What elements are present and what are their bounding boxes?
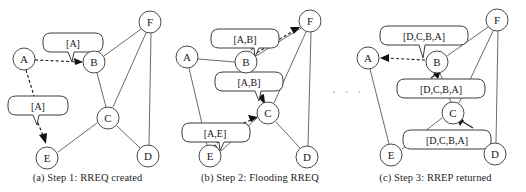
- node-d[interactable]: D: [296, 146, 318, 168]
- node-b-label: B: [433, 56, 440, 68]
- message-label-7: [D,C,B,A]: [420, 84, 462, 95]
- edge-d-f: [149, 33, 151, 145]
- node-a-label: A: [20, 53, 28, 65]
- node-d[interactable]: D: [484, 143, 506, 165]
- node-a[interactable]: A: [357, 47, 379, 69]
- message-label-1: [A]: [66, 38, 80, 49]
- edge-d-f: [308, 32, 311, 146]
- node-b-label: B: [242, 56, 249, 68]
- node-a-label: A: [183, 51, 191, 63]
- edge-b-c: [97, 73, 106, 107]
- node-f[interactable]: F: [486, 9, 508, 31]
- figure-aodv-route-discovery: [A] [A] A B: [0, 0, 526, 192]
- node-b[interactable]: B: [83, 51, 105, 73]
- message-b-to-a: [D,C,B,A]: [380, 26, 468, 62]
- node-b-label: B: [90, 56, 97, 68]
- message-arrow-b-a: [385, 58, 425, 60]
- node-e-label: E: [207, 150, 214, 162]
- edge-c-f: [113, 33, 146, 107]
- node-e[interactable]: E: [36, 147, 58, 169]
- node-a-label: A: [364, 52, 372, 64]
- node-e[interactable]: E: [380, 144, 402, 166]
- node-d-label: D: [491, 148, 499, 160]
- edge-c-d: [276, 122, 300, 148]
- node-e[interactable]: E: [199, 145, 221, 167]
- edge-d-f: [496, 31, 498, 143]
- message-arrow-a-e: [26, 70, 34, 96]
- panel-a-caption: (a) Step 1: RREQ created: [0, 172, 175, 183]
- panel-step-1: [A] [A] A B: [0, 0, 175, 192]
- node-c-label: C: [449, 107, 456, 119]
- panel-separator-ellipsis: · · ·: [332, 84, 364, 100]
- message-arrowhead-a-b: [74, 58, 83, 65]
- node-a[interactable]: A: [176, 46, 198, 68]
- edge-b-f: [104, 29, 141, 56]
- node-c[interactable]: C: [442, 102, 464, 124]
- message-b-to-f: [A,B]: [211, 27, 300, 60]
- node-b[interactable]: B: [426, 51, 448, 73]
- node-b[interactable]: B: [235, 51, 257, 73]
- node-a[interactable]: A: [13, 48, 35, 70]
- node-c[interactable]: C: [257, 102, 279, 124]
- message-c-to-b: [D,C,B,A]: [397, 70, 485, 98]
- edge-a-e: [370, 69, 389, 144]
- message-label-4: [A,B]: [237, 77, 260, 88]
- node-f-label: F: [494, 14, 500, 26]
- node-f[interactable]: F: [139, 11, 161, 33]
- message-a-to-e: [A]: [8, 70, 68, 144]
- panel-step-3: [D,C,B,A] [D,C,B,A] [D,C,B,A] A: [345, 0, 526, 192]
- node-f-label: F: [307, 15, 313, 27]
- panel-b-caption: (b) Step 2: Flooding RREQ: [175, 172, 345, 183]
- node-d[interactable]: D: [137, 145, 159, 167]
- node-c-label: C: [264, 107, 271, 119]
- node-e-label: E: [44, 152, 51, 164]
- message-b-to-c: [A,B]: [215, 72, 283, 105]
- message-arrowhead-b-f: [290, 27, 300, 34]
- message-label-2: [A]: [31, 101, 45, 112]
- message-e-to-c: [A,E]: [182, 115, 258, 152]
- edge-c-d: [117, 126, 140, 148]
- node-f-label: F: [147, 16, 153, 28]
- node-d-label: D: [144, 150, 152, 162]
- message-label-5: [A,E]: [204, 128, 227, 139]
- message-arrowhead-a-e: [39, 133, 47, 144]
- message-label-8: [D,C,B,A]: [426, 135, 468, 146]
- edge-a-b: [198, 59, 235, 62]
- panel-c-graph: [D,C,B,A] [D,C,B,A] [D,C,B,A] A: [345, 0, 526, 172]
- panel-b-graph: [A,B] [A,B] [A,E] A: [175, 0, 345, 172]
- message-label-3: [A,B]: [233, 34, 256, 45]
- panel-step-2: [A,B] [A,B] [A,E] A: [175, 0, 345, 192]
- node-e-label: E: [388, 149, 395, 161]
- node-d-label: D: [303, 151, 311, 163]
- panel-a-graph: [A] [A] A B: [0, 0, 175, 172]
- message-label-6: [D,C,B,A]: [403, 31, 445, 42]
- node-f[interactable]: F: [299, 10, 321, 32]
- node-c[interactable]: C: [97, 107, 119, 129]
- node-c-label: C: [104, 112, 111, 124]
- edge-c-e: [58, 123, 97, 152]
- message-arrowhead-b-a: [380, 54, 389, 62]
- panel-c-caption: (c) Step 3: RREP returned: [345, 172, 526, 183]
